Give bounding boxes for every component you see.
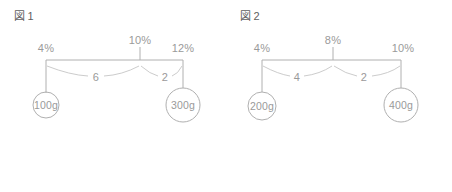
right-distance-brace-end bbox=[172, 66, 182, 76]
left-distance-label: 6 bbox=[93, 71, 99, 83]
right-percent-label: 12% bbox=[172, 42, 195, 54]
left-distance-label: 4 bbox=[294, 71, 300, 83]
diagram-canvas: 図1 4% 10% 12% 6 2 100g 300g bbox=[0, 0, 452, 192]
fulcrum-percent-label: 10% bbox=[129, 34, 152, 46]
right-distance-label: 2 bbox=[162, 71, 168, 83]
left-mass-label: 200g bbox=[250, 100, 274, 112]
left-distance-brace-end bbox=[104, 66, 139, 76]
right-distance-brace-end bbox=[372, 66, 400, 76]
left-percent-label: 4% bbox=[38, 42, 54, 54]
answer-bar: 正 解 ▶ 1 bbox=[0, 150, 452, 192]
right-mass-label: 300g bbox=[171, 99, 195, 111]
figure-2-balance-drawing bbox=[226, 0, 452, 150]
right-distance-brace-start bbox=[334, 66, 357, 76]
left-percent-label: 4% bbox=[254, 42, 270, 54]
right-distance-label: 2 bbox=[361, 71, 367, 83]
left-distance-brace-end bbox=[304, 66, 332, 76]
figure-1: 図1 4% 10% 12% 6 2 100g 300g bbox=[0, 0, 226, 150]
left-mass-label: 100g bbox=[34, 99, 58, 111]
right-distance-brace-start bbox=[141, 66, 158, 76]
figure-1-balance-drawing bbox=[0, 0, 226, 150]
fulcrum-percent-label: 8% bbox=[325, 34, 341, 46]
right-mass-label: 400g bbox=[389, 99, 413, 111]
left-distance-brace-start bbox=[47, 66, 88, 76]
left-distance-brace-start bbox=[263, 66, 290, 76]
right-percent-label: 10% bbox=[392, 42, 415, 54]
figure-2: 図2 4% 8% 10% 4 2 200g 400g bbox=[226, 0, 452, 150]
